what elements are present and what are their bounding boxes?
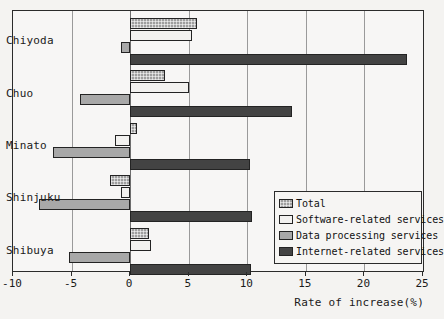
bar-minato-data-processing-services [53,147,130,158]
category-label-minato: Minato [6,139,47,152]
x-tick-mark [71,272,72,276]
bar-shibuya-data-processing-services [69,252,130,263]
gridline [189,11,190,271]
category-label-shinjuku: Shinjuku [6,191,61,204]
legend-swatch-internet-icon [279,247,293,256]
category-label-shibuya: Shibuya [6,244,54,257]
bar-chuo-internet-related-services [130,106,292,117]
legend-label-data-processing: Data processing services [296,230,438,241]
legend-swatch-data-processing-icon [279,231,293,240]
bar-shibuya-total [130,228,149,239]
bar-shinjuku-total [110,175,130,186]
legend-label-software: Software-related services [296,214,444,225]
bar-chiyoda-total [130,18,197,29]
x-tick-label: -5 [64,277,77,290]
bar-shibuya-software-related-services [130,240,151,251]
x-tick-mark [188,272,189,276]
legend-item-total: Total [279,195,417,211]
x-tick-mark [422,272,423,276]
bar-chiyoda-internet-related-services [130,54,406,65]
bar-chuo-software-related-services [130,82,189,93]
category-label-chuo: Chuo [6,87,33,100]
bar-chuo-data-processing-services [80,94,130,105]
bar-shibuya-internet-related-services [130,264,251,275]
bar-shinjuku-software-related-services [121,187,130,198]
x-tick-label: -10 [2,277,22,290]
x-tick-mark [246,272,247,276]
x-tick-label: 15 [298,277,311,290]
legend-item-software-related-services: Software-related services [279,211,417,227]
x-axis-title: Rate of increase(%) [294,296,424,309]
x-tick-label: 0 [126,277,133,290]
gridline [72,11,73,271]
category-label-chiyoda: Chiyoda [6,34,54,47]
legend-swatch-total-icon [279,199,293,208]
gridline [247,11,248,271]
x-tick-label: 25 [415,277,428,290]
x-tick-label: 20 [357,277,370,290]
bar-minato-software-related-services [115,135,130,146]
x-tick-label: 10 [240,277,253,290]
bar-minato-internet-related-services [130,159,249,170]
bar-chuo-total [130,70,165,81]
bar-shinjuku-internet-related-services [130,211,252,222]
legend-item-internet-related-services: Internet-related services [279,243,417,259]
legend-label-total: Total [296,198,326,209]
bar-minato-total [130,123,137,134]
legend-label-internet: Internet-related services [296,246,444,257]
x-tick-mark [129,272,130,276]
legend-item-data-processing-services: Data processing services [279,227,417,243]
chart-legend: Total Software-related services Data pro… [274,191,422,264]
bar-chiyoda-software-related-services [130,30,192,41]
x-tick-mark [305,272,306,276]
x-tick-label: 5 [184,277,191,290]
x-tick-mark [363,272,364,276]
legend-swatch-software-icon [279,215,293,224]
x-tick-mark [12,272,13,276]
bar-chiyoda-data-processing-services [121,42,130,53]
